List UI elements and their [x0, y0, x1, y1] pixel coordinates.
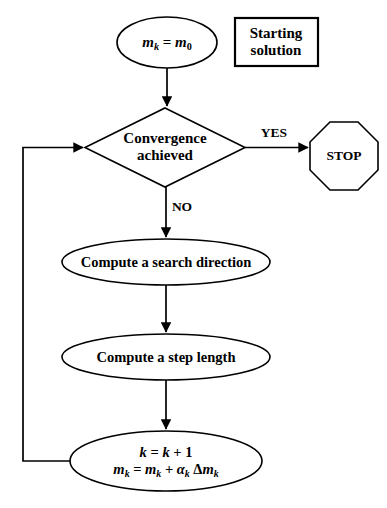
- annotation-line-1: Starting: [237, 25, 315, 42]
- stop-node-label: STOP: [326, 148, 361, 163]
- flowchart-canvas: mk = m0 Starting solution Convergence ac…: [0, 0, 387, 508]
- edge-label-yes: YES: [261, 125, 287, 140]
- annotation-line-2: solution: [237, 42, 315, 59]
- decision-node-label: Convergence achieved: [123, 130, 206, 164]
- decision-line-2: achieved: [123, 147, 206, 164]
- update-line-1: k = k + 1: [113, 444, 218, 460]
- decision-line-1: Convergence: [123, 130, 206, 147]
- update-node-label: k = k + 1 mk = mk + αk Δmk: [113, 444, 218, 477]
- start-node-label: mk = m0: [142, 34, 192, 51]
- edge-update-to-decision-feedback: [23, 148, 83, 462]
- annotation-box-label: Starting solution: [237, 25, 315, 59]
- edge-label-no: NO: [172, 199, 192, 214]
- update-line-2: mk = mk + αk Δmk: [113, 462, 218, 478]
- search-direction-node-label: Compute a search direction: [81, 254, 252, 270]
- step-length-node-label: Compute a step length: [97, 349, 236, 365]
